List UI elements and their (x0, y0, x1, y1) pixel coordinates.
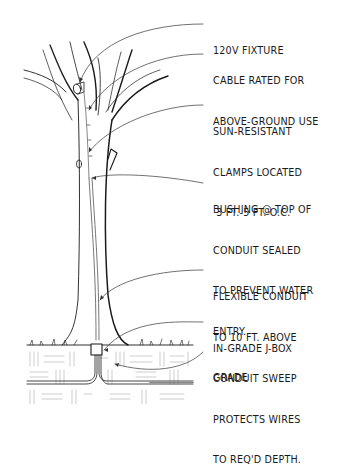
tree-branches (24, 42, 168, 120)
cable-and-conduit (84, 92, 99, 340)
callout-line: CABLE RATED FOR (213, 74, 318, 88)
callout-line: FLEXIBLE CONDUIT (213, 290, 308, 304)
grade-line (27, 339, 193, 345)
fixture-icon (72, 82, 84, 95)
callout-line: CONDUIT SEALED (213, 244, 313, 258)
callout-line: TO REQ'D DEPTH. (213, 453, 301, 467)
conduit-sweep (27, 355, 193, 384)
callout-line: BUSHING @ TOP OF (213, 203, 313, 217)
callout-sweep: CONDUIT SWEEP PROTECTS WIRES TO REQ'D DE… (213, 345, 301, 468)
callout-line: CONDUIT SWEEP (213, 372, 301, 386)
callout-line: SUN-RESISTANT (213, 125, 302, 139)
jbox-icon (91, 344, 102, 355)
soil-hatch (30, 352, 188, 404)
callout-line: PROTECTS WIRES (213, 413, 301, 427)
